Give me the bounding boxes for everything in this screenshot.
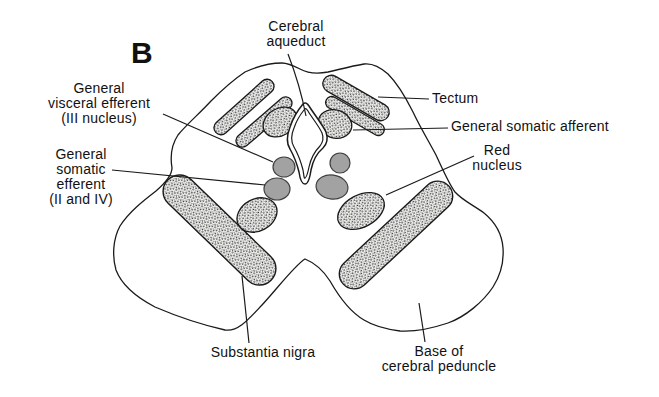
figure-panel: B Cerebral aqueduct General visceral eff…	[0, 0, 659, 397]
label-general-visceral-efferent: General visceral efferent (III nucleus)	[48, 81, 150, 126]
general-visceral-efferent-nucleus-right	[330, 153, 350, 173]
label-tectum: Tectum	[432, 91, 478, 106]
label-base-of-cerebral-peduncle: Base of cerebral peduncle	[382, 344, 497, 374]
panel-letter: B	[131, 36, 154, 70]
label-general-somatic-efferent: General somatic efferent (II and IV)	[49, 147, 113, 207]
label-substantia-nigra: Substantia nigra	[211, 345, 315, 360]
general-visceral-efferent-nucleus-left	[273, 157, 295, 177]
label-general-somatic-afferent: General somatic afferent	[451, 119, 609, 134]
general-somatic-efferent-nucleus-left	[264, 178, 290, 200]
label-cerebral-aqueduct: Cerebral aqueduct	[266, 19, 325, 49]
label-red-nucleus: Red nucleus	[472, 143, 522, 173]
